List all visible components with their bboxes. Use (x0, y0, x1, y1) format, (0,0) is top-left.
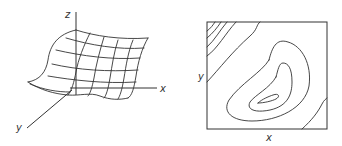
figure: z x y y x (0, 0, 342, 146)
y-axis-label: y (15, 122, 23, 133)
y-axis (27, 90, 72, 128)
contour-lines (207, 22, 327, 129)
surface-mesh (28, 30, 148, 99)
x-axis-label: x (159, 83, 166, 94)
surface-plot: z x y (15, 9, 166, 133)
x-axis-label: x (265, 132, 272, 143)
plot-frame (207, 22, 327, 129)
contour-plot: y x (197, 22, 327, 143)
z-axis-label: z (64, 9, 71, 20)
y-axis-label: y (197, 71, 205, 82)
